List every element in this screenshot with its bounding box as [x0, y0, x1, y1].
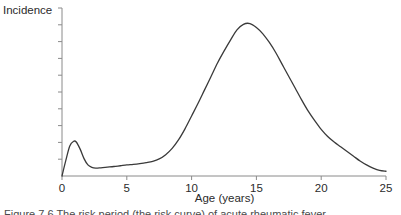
x-axis-ticks	[62, 176, 386, 180]
figure-container: Incidence 0510152025 Age (years) Figure …	[0, 0, 401, 215]
incidence-curve-chart: 0510152025	[0, 0, 401, 215]
y-axis-ticks	[58, 8, 62, 159]
x-axis-label: Age (years)	[0, 192, 401, 204]
figure-caption: Figure 7.6 The risk period (the risk cur…	[4, 208, 401, 215]
x-axis-label-text: Age (years)	[195, 192, 254, 204]
incidence-curve-path	[62, 23, 386, 176]
